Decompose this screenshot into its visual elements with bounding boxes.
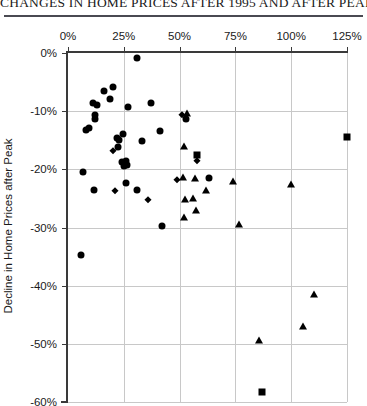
data-point-circle <box>107 95 114 102</box>
y-axis-tick-label: 0% <box>40 47 57 59</box>
chart-title-container: CHANGES IN HOME PRICES AFTER 1995 AND AF… <box>0 0 367 18</box>
x-axis-tick-label: 75% <box>224 30 247 42</box>
y-axis-tick <box>62 53 68 54</box>
y-axis-tick-label: -20% <box>30 163 57 175</box>
data-point-circle <box>147 100 154 107</box>
gridline-vertical <box>347 53 348 402</box>
chart-title: CHANGES IN HOME PRICES AFTER 1995 AND AF… <box>0 0 367 11</box>
x-axis-tick <box>68 47 69 53</box>
data-point-triangle <box>189 195 197 202</box>
data-point-square <box>259 388 266 395</box>
data-point-square <box>194 152 201 159</box>
gridline-horizontal <box>68 402 347 403</box>
data-point-triangle <box>191 175 199 182</box>
data-point-circle <box>119 131 126 138</box>
data-point-triangle <box>287 181 295 188</box>
y-axis-tick-label: -30% <box>30 222 57 234</box>
data-point-triangle <box>192 207 200 214</box>
y-axis-tick-label: -50% <box>30 338 57 350</box>
y-axis-tick <box>62 402 68 403</box>
y-axis-tick <box>62 228 68 229</box>
scatter-chart: CHANGES IN HOME PRICES AFTER 1995 AND AF… <box>0 0 367 406</box>
data-point-circle <box>94 102 101 109</box>
x-axis-tick-label: 100% <box>276 30 305 42</box>
data-point-triangle <box>235 221 243 228</box>
data-point-circle <box>91 116 98 123</box>
data-point-circle <box>205 175 212 182</box>
data-point-triangle <box>181 195 189 202</box>
gridline-horizontal <box>68 111 347 112</box>
y-axis-tick-label: -10% <box>30 105 57 117</box>
y-axis-tick <box>62 111 68 112</box>
data-point-circle <box>100 88 107 95</box>
x-axis-tick-label: 125% <box>332 30 361 42</box>
x-axis-tick <box>180 47 181 53</box>
x-axis-tick-label: 50% <box>168 30 191 42</box>
data-point-circle <box>158 223 165 230</box>
data-point-circle <box>86 125 93 132</box>
data-point-triangle <box>180 214 188 221</box>
y-axis-tick-label: -60% <box>30 396 57 406</box>
gridline-horizontal <box>68 286 347 287</box>
data-point-triangle <box>180 143 188 150</box>
gridline-horizontal <box>68 169 347 170</box>
data-point-triangle <box>229 177 237 184</box>
data-point-circle <box>109 84 116 91</box>
y-axis-tick <box>62 286 68 287</box>
y-axis-tick <box>62 169 68 170</box>
data-point-triangle <box>255 337 263 344</box>
data-point-circle <box>156 127 163 134</box>
y-axis-title-container: Decline in Home Prices after Peak <box>7 51 8 400</box>
data-point-triangle <box>299 322 307 329</box>
data-point-circle <box>138 138 145 145</box>
data-point-circle <box>123 179 130 186</box>
data-point-circle <box>125 104 132 111</box>
title-divider <box>4 15 363 17</box>
data-point-circle <box>90 186 97 193</box>
data-point-triangle <box>179 174 187 181</box>
y-axis-tick-label: -40% <box>30 280 57 292</box>
plot-area: 0%25%50%75%100%125%0%-10%-20%-30%-40%-50… <box>66 51 347 402</box>
gridline-horizontal <box>68 344 347 345</box>
data-point-circle <box>79 169 86 176</box>
data-point-triangle <box>183 109 191 116</box>
data-point-circle <box>134 54 141 61</box>
x-axis-tick <box>124 47 125 53</box>
x-axis-tick-label: 25% <box>112 30 135 42</box>
data-point-triangle <box>202 187 210 194</box>
x-axis-tick <box>347 47 348 53</box>
data-point-square <box>344 134 351 141</box>
x-axis-tick <box>235 47 236 53</box>
y-axis-title: Decline in Home Prices after Peak <box>2 138 14 313</box>
x-axis-tick-label: 0% <box>60 30 77 42</box>
data-point-circle <box>134 187 141 194</box>
gridline-horizontal <box>68 228 347 229</box>
data-point-circle <box>124 161 131 168</box>
x-axis-tick <box>291 47 292 53</box>
data-point-triangle <box>310 290 318 297</box>
data-point-circle <box>78 252 85 259</box>
y-axis-tick <box>62 344 68 345</box>
